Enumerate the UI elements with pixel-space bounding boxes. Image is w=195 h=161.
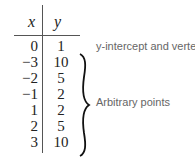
arbitrary-points-annotation: Arbitrary points (96, 96, 170, 108)
cell-y: 1 (49, 38, 73, 55)
cell-y: 5 (49, 118, 73, 135)
cell-x: −3 (22, 54, 38, 71)
table-row: 0 1 (14, 38, 80, 54)
cell-x: 1 (31, 102, 39, 119)
curly-brace-icon (78, 53, 92, 157)
table-row: 2 5 (14, 118, 80, 134)
vertex-annotation: y-intercept and vertex (96, 40, 195, 52)
cell-x: −2 (22, 70, 38, 87)
cell-y: 10 (49, 54, 73, 71)
table-row: −1 2 (14, 86, 80, 102)
table-row: 1 2 (14, 102, 80, 118)
cell-x: 2 (31, 118, 39, 135)
header-y: y (54, 13, 61, 31)
cell-x: 3 (31, 134, 39, 151)
cell-x: 0 (31, 38, 39, 55)
cell-y: 2 (49, 102, 73, 119)
cell-x: −1 (22, 86, 38, 103)
cell-y: 10 (49, 134, 73, 151)
cell-y: 2 (49, 86, 73, 103)
header-x: x (28, 13, 35, 31)
table-row: −2 5 (14, 70, 80, 86)
table-row: −3 10 (14, 54, 80, 70)
table-row: 3 10 (14, 134, 80, 150)
cell-y: 5 (49, 70, 73, 87)
header-divider (14, 35, 80, 36)
